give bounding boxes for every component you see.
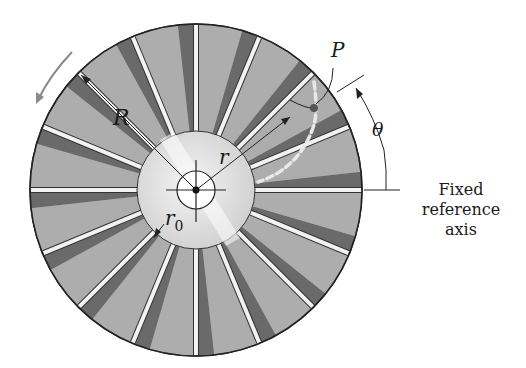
- theta-tick: [337, 75, 364, 92]
- point-p: [310, 104, 318, 112]
- label-r0-base: r: [165, 206, 175, 230]
- label-r0-subscript: 0: [175, 218, 184, 234]
- caption-line-1: Fixed: [400, 180, 522, 200]
- caption-line-3: axis: [400, 220, 522, 240]
- label-P: P: [331, 38, 344, 62]
- diagram-stage: R r r0 P θ Fixed reference axis: [0, 0, 526, 368]
- label-theta: θ: [372, 118, 383, 140]
- reference-axis-caption: Fixed reference axis: [400, 180, 522, 240]
- label-r0: r0: [165, 206, 183, 230]
- label-R: R: [113, 105, 130, 130]
- label-r: r: [219, 145, 229, 169]
- caption-line-2: reference: [400, 200, 522, 220]
